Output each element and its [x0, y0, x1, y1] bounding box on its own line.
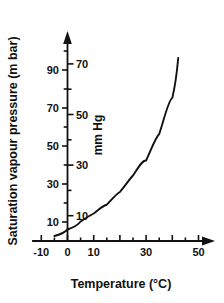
y2-axis-title: mm Hg: [91, 115, 105, 156]
x-tick-label-50: 50: [192, 246, 204, 258]
x-tick-label--10: -10: [33, 246, 49, 258]
y-tick-label-30: 30: [47, 178, 59, 190]
x-tick-label-30: 30: [140, 246, 152, 258]
chart-figure: -10 0 10 30 50 10 30 50 70 90: [0, 0, 224, 303]
x-tick-label-10: 10: [88, 246, 100, 258]
y-tick-label-70: 70: [47, 102, 59, 114]
y-tick-label-50: 50: [47, 140, 59, 152]
y2-tick-label-70: 70: [76, 58, 88, 70]
x-tick-label-0: 0: [64, 246, 70, 258]
saturation-vapour-pressure-chart: -10 0 10 30 50 10 30 50 70 90: [0, 0, 224, 303]
y2-tick-label-30: 30: [76, 159, 88, 171]
y-tick-label-10: 10: [47, 216, 59, 228]
x-axis-title: Temperature (°C): [71, 277, 172, 291]
y2-tick-label-50: 50: [76, 109, 88, 121]
y-tick-label-90: 90: [47, 64, 59, 76]
y-axis-title: Saturation vapour pressure (m bar): [6, 36, 20, 245]
